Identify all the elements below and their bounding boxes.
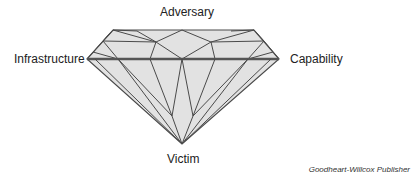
vertex-label-adversary: Adversary [160, 5, 214, 19]
vertex-label-capability: Capability [290, 52, 343, 66]
diamond-outline [87, 30, 279, 144]
vertex-label-infrastructure: Infrastructure [14, 52, 85, 66]
diamond-graphic [0, 0, 418, 187]
publisher-credit: Goodheart-Willcox Publisher [309, 165, 410, 174]
vertex-label-victim: Victim [167, 152, 199, 166]
